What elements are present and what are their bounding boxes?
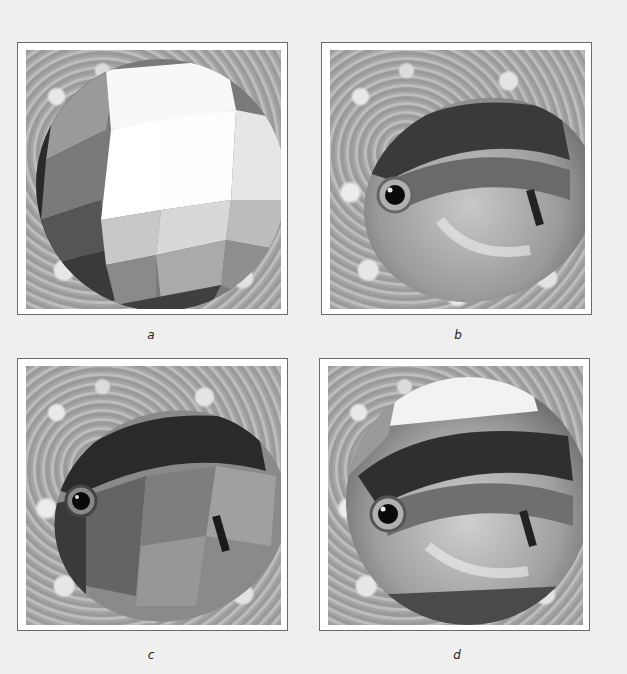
panel-d-image [328, 366, 583, 625]
panel-c-label: c [141, 648, 161, 662]
fish-textured-sphere [330, 50, 585, 309]
faceted-sphere [26, 50, 281, 309]
panel-c-image [26, 366, 281, 625]
figure-panel-c [17, 358, 288, 631]
panel-b-label: b [448, 328, 468, 342]
reflective-fish-sphere [328, 366, 583, 625]
panel-b-image [330, 50, 585, 309]
panel-d-label: d [447, 648, 467, 662]
faceted-fish-sphere [26, 366, 281, 625]
panel-a-label: a [141, 328, 161, 342]
panel-a-image [26, 50, 281, 309]
figure-panel-a [17, 42, 288, 315]
figure-panel-d [319, 358, 590, 631]
figure-panel-b [321, 42, 592, 315]
